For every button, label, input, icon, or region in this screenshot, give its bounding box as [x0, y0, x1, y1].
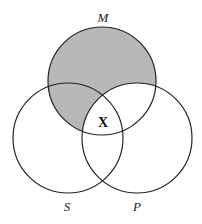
venn-diagram: M S P X	[0, 0, 202, 224]
label-p: P	[132, 199, 141, 214]
label-m: M	[97, 10, 110, 25]
x-mark: X	[98, 115, 108, 130]
label-s: S	[64, 199, 71, 214]
